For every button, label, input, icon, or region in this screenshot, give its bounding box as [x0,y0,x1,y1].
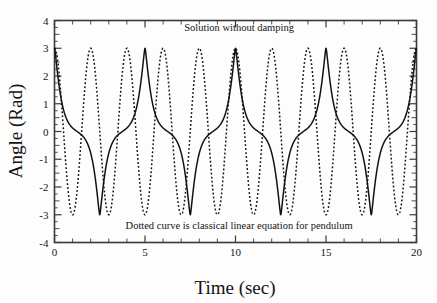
top-annotation: Solution without damping [184,22,294,33]
x-axis-major-ticks [55,21,417,243]
y-axis-major-ticks [55,21,417,243]
y-axis-title: Angle (Rad) [5,84,27,178]
chart-canvas: -4-3-2-101234 05101520 Solution without … [0,0,437,303]
x-tick-label: 20 [411,246,423,258]
x-tick-label: 15 [321,246,333,258]
y-tick-label: 4 [43,15,49,27]
series-linear-pendulum-dotted [55,48,417,215]
y-tick-label: 0 [43,126,49,138]
y-tick-label: 1 [43,98,49,110]
x-tick-label: 5 [142,246,148,258]
pendulum-angle-chart: -4-3-2-101234 05101520 Solution without … [0,0,437,303]
y-tick-label: -2 [39,181,48,193]
x-axis-tick-labels: 05101520 [52,246,423,258]
series-nonlinear-pendulum-solid [55,48,417,215]
plot-frame [55,21,417,243]
bottom-annotation: Dotted curve is classical linear equatio… [126,220,353,231]
y-tick-label: -3 [39,209,49,221]
x-tick-label: 10 [230,246,242,258]
y-tick-label: 2 [43,70,49,82]
x-tick-label: 0 [52,246,58,258]
y-tick-label: 3 [43,42,49,54]
y-tick-label: -1 [39,153,48,165]
y-tick-label: -4 [39,237,49,249]
x-axis-title: Time (sec) [194,277,275,299]
y-axis-tick-labels: -4-3-2-101234 [39,15,49,249]
y-axis-minor-ticks [55,27,417,235]
